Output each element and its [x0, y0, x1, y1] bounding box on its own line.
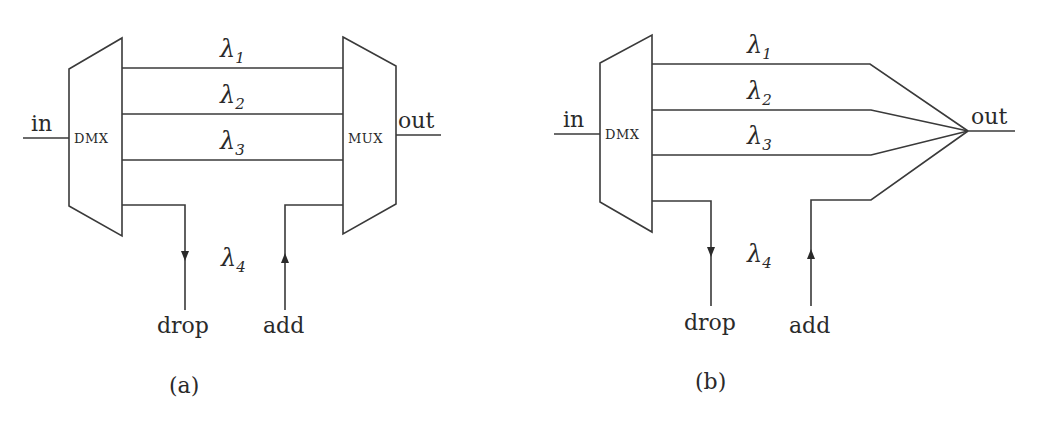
- caption-a: (a): [169, 373, 199, 398]
- lambda-1-label: λ1: [746, 31, 772, 63]
- lambda-3-label: λ3: [746, 122, 772, 154]
- oadm-diagram-figure: in DMX λ1 λ2 λ3 λ4 drop add MUX out (a): [0, 0, 1038, 428]
- demux-label: DMX: [605, 127, 640, 142]
- lambda-4-label: λ4: [746, 240, 772, 272]
- add-wire: [285, 205, 343, 310]
- demux-label: DMX: [74, 131, 109, 146]
- mux-label: MUX: [348, 131, 383, 146]
- lambda-2-label: λ2: [746, 77, 772, 109]
- add-arrow-icon: [281, 253, 289, 263]
- drop-label: drop: [157, 313, 209, 338]
- input-label: in: [563, 107, 584, 132]
- add-label: add: [263, 313, 304, 338]
- drop-label: drop: [684, 310, 736, 335]
- lambda-4-label: λ4: [220, 244, 246, 276]
- add-wire: [811, 131, 968, 306]
- channel-wire-3: [652, 131, 968, 155]
- drop-arrow-icon: [707, 247, 715, 257]
- channel-wire-2: [652, 110, 968, 131]
- panel-b: in DMX λ1 λ2 λ3 λ4 drop add out (b): [554, 31, 1015, 394]
- output-label: out: [971, 104, 1007, 129]
- panel-a: in DMX λ1 λ2 λ3 λ4 drop add MUX out (a): [23, 35, 441, 398]
- lambda-1-label: λ1: [219, 35, 245, 67]
- drop-wire: [652, 201, 711, 306]
- lambda-2-label: λ2: [219, 81, 245, 113]
- add-label: add: [789, 313, 830, 338]
- output-label: out: [398, 108, 434, 133]
- input-label: in: [31, 111, 52, 136]
- drop-arrow-icon: [181, 251, 189, 261]
- drop-wire: [122, 205, 185, 310]
- lambda-3-label: λ3: [219, 127, 245, 159]
- caption-b: (b): [695, 369, 726, 394]
- add-arrow-icon: [807, 249, 815, 259]
